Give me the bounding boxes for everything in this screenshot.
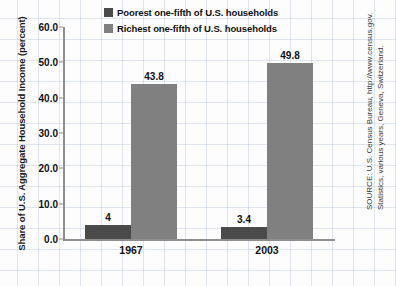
- y-axis-tick-label: 40.0: [39, 92, 58, 103]
- x-axis-category-label: 2003: [255, 244, 278, 256]
- y-axis-tick-label: 30.0: [39, 128, 58, 139]
- x-axis-category-label: 1967: [119, 244, 142, 256]
- bar[interactable]: 4: [85, 225, 131, 239]
- source-note: SOURCE: U.S. Census Bureau, http://www.c…: [364, 0, 386, 210]
- chart-page: Share of U.S. Aggregate Household Income…: [0, 0, 396, 286]
- bar-value-label: 43.8: [144, 71, 163, 82]
- bar-group: 443.81967: [63, 27, 199, 239]
- y-axis-tick-label: 0.0: [44, 234, 58, 245]
- y-axis-tick-label: 60.0: [39, 22, 58, 33]
- plot-area: 0.010.020.030.040.050.060.0 443.819673.4…: [63, 27, 335, 241]
- source-line-1: SOURCE: U.S. Census Bureau, http://www.c…: [364, 0, 375, 210]
- y-axis-title: Share of U.S. Aggregate Household Income…: [16, 9, 27, 259]
- bar-value-label: 4: [105, 212, 111, 223]
- bar-value-label: 49.8: [280, 50, 299, 61]
- legend-label-poorest: Poorest one-fifth of U.S. households: [117, 7, 278, 18]
- y-axis-tick-label: 20.0: [39, 163, 58, 174]
- y-axis-tick-label: 10.0: [39, 198, 58, 209]
- legend-swatch-poorest: [104, 8, 113, 17]
- legend-item-poorest: Poorest one-fifth of U.S. households: [104, 7, 278, 18]
- source-line-2: Statistics, various years, Geneva, Switz…: [375, 0, 386, 210]
- x-axis-line: [63, 239, 335, 241]
- bar-group: 3.449.82003: [199, 27, 335, 239]
- y-axis-tick-label: 50.0: [39, 57, 58, 68]
- bar-value-label: 3.4: [237, 214, 251, 225]
- bar[interactable]: 43.8: [131, 84, 177, 239]
- bar[interactable]: 3.4: [221, 227, 267, 239]
- bar[interactable]: 49.8: [267, 63, 313, 239]
